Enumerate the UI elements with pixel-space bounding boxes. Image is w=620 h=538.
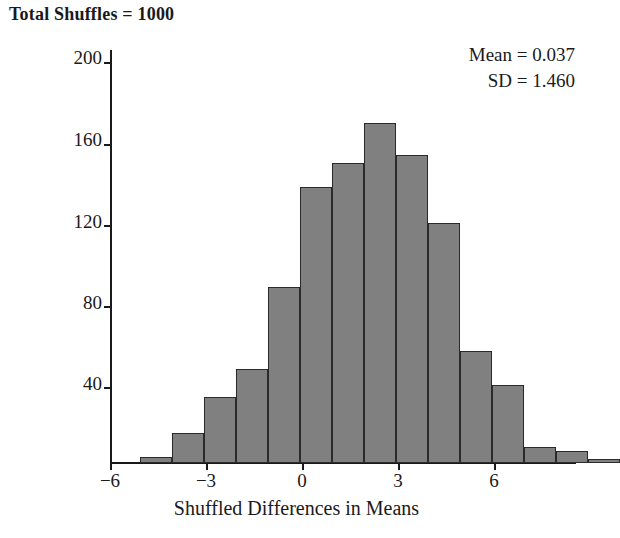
histogram-bar bbox=[396, 155, 428, 463]
histogram-bar bbox=[300, 187, 332, 463]
histogram-bar bbox=[588, 459, 620, 463]
histogram-bar bbox=[236, 369, 268, 463]
x-tick-label-neg6: −6 bbox=[87, 470, 133, 492]
x-axis-label: Shuffled Differences in Means bbox=[0, 497, 593, 520]
x-tick-mark-neg6 bbox=[110, 464, 112, 470]
y-tick-label-40: 40 bbox=[40, 373, 102, 395]
x-tick-mark-neg3 bbox=[206, 464, 208, 470]
y-axis-label: Count bbox=[0, 228, 1, 274]
x-tick-mark-6 bbox=[494, 464, 496, 470]
histogram-bar bbox=[140, 457, 172, 463]
histogram-bar bbox=[268, 287, 300, 463]
y-tick-label-80: 80 bbox=[40, 292, 102, 314]
histogram-bar bbox=[172, 433, 204, 463]
histogram-bar bbox=[332, 163, 364, 463]
x-tick-label-0: 0 bbox=[279, 470, 325, 492]
histogram-bar bbox=[204, 397, 236, 463]
x-tick-mark-0 bbox=[302, 464, 304, 470]
histogram-bar bbox=[364, 123, 396, 463]
histogram-bars bbox=[110, 50, 576, 463]
x-tick-label-neg3: −3 bbox=[183, 470, 229, 492]
x-tick-label-3: 3 bbox=[375, 470, 421, 492]
y-tick-label-160: 160 bbox=[40, 129, 102, 151]
histogram-bar bbox=[492, 385, 524, 463]
x-tick-label-6: 6 bbox=[471, 470, 517, 492]
histogram-bar bbox=[524, 447, 556, 463]
x-tick-mark-3 bbox=[398, 464, 400, 470]
histogram-bar bbox=[460, 351, 492, 463]
histogram-bar bbox=[428, 223, 460, 463]
histogram-bar bbox=[556, 451, 588, 463]
y-tick-label-200: 200 bbox=[40, 47, 102, 69]
y-tick-label-120: 120 bbox=[40, 211, 102, 233]
chart-title: Total Shuffles = 1000 bbox=[9, 4, 174, 25]
